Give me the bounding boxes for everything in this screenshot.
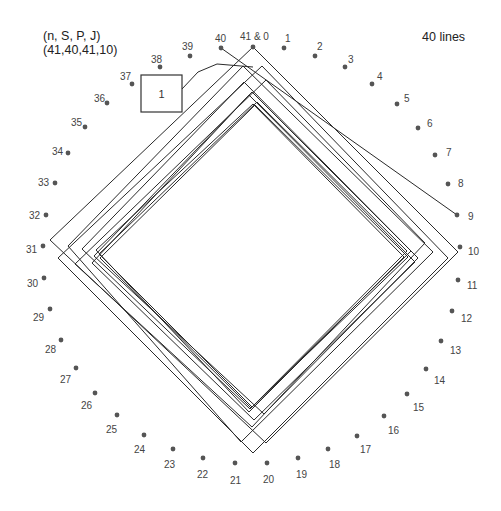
- point-34: 34: [52, 146, 70, 157]
- point-label: 8: [458, 178, 464, 189]
- point-label: 34: [52, 146, 64, 157]
- diamond-lines: [50, 47, 458, 453]
- point-label: 19: [296, 469, 308, 480]
- point-23: 23: [164, 447, 176, 470]
- diamond-10: [100, 105, 408, 408]
- point-dot: [41, 244, 46, 249]
- point-dot: [201, 456, 206, 461]
- point-dot: [382, 414, 387, 419]
- polygon-diagram: 1 41 & 012345678910111213141516171819202…: [0, 0, 501, 511]
- diamond-6: [94, 92, 418, 414]
- point-label: 22: [197, 469, 209, 480]
- point-label: 30: [27, 278, 39, 289]
- point-dot: [171, 447, 176, 452]
- point-22: 22: [197, 456, 209, 480]
- point-label: 26: [81, 400, 93, 411]
- point-dot: [251, 45, 256, 50]
- point-label: 32: [29, 210, 41, 221]
- point-dot: [450, 309, 455, 314]
- point-7: 7: [433, 147, 452, 158]
- diamond-7: [92, 95, 415, 420]
- diamond-2: [58, 66, 448, 453]
- point-dot: [115, 413, 120, 418]
- point-9: 9: [455, 211, 474, 222]
- point-dot: [296, 456, 301, 461]
- point-0: 41 & 0: [240, 31, 269, 49]
- point-32: 32: [29, 210, 48, 221]
- point-dot: [59, 338, 64, 343]
- numbered-box: 1: [141, 64, 253, 112]
- point-18: 18: [326, 447, 341, 470]
- point-label: 15: [413, 402, 425, 413]
- point-label: 39: [182, 41, 194, 52]
- point-1: 1: [282, 33, 291, 50]
- point-label: 20: [263, 474, 275, 485]
- point-38: 38: [151, 54, 163, 69]
- box-connector-line: [182, 64, 253, 89]
- point-label: 5: [404, 93, 410, 104]
- point-dot: [265, 461, 270, 466]
- point-20: 20: [263, 461, 275, 485]
- point-13: 13: [439, 339, 462, 356]
- point-label: 37: [120, 71, 132, 82]
- point-label: 21: [230, 475, 242, 486]
- point-label: 41 & 0: [240, 31, 269, 42]
- diamond-5: [82, 82, 411, 409]
- point-dot: [158, 65, 163, 70]
- point-15: 15: [405, 392, 425, 413]
- point-30: 30: [27, 276, 46, 289]
- point-label: 6: [427, 118, 433, 129]
- point-label: 40: [215, 33, 227, 44]
- point-dot: [93, 391, 98, 396]
- point-label: 14: [434, 375, 446, 386]
- point-label: 11: [467, 280, 478, 291]
- point-17: 17: [355, 434, 372, 455]
- point-2: 2: [313, 41, 323, 58]
- point-label: 9: [468, 211, 474, 222]
- point-label: 35: [71, 117, 83, 128]
- point-label: 2: [317, 41, 323, 52]
- point-dot: [188, 54, 193, 59]
- point-5: 5: [395, 93, 410, 106]
- point-19: 19: [296, 456, 308, 480]
- point-dot: [219, 46, 224, 51]
- point-dot: [83, 125, 88, 130]
- point-label: 10: [468, 246, 480, 257]
- point-dot: [326, 447, 331, 452]
- point-label: 13: [450, 345, 462, 356]
- point-29: 29: [33, 307, 52, 323]
- point-dot: [48, 307, 53, 312]
- point-label: 27: [60, 374, 72, 385]
- point-25: 25: [106, 413, 119, 435]
- point-dot: [66, 151, 71, 156]
- point-39: 39: [182, 41, 194, 58]
- point-dot: [355, 434, 360, 439]
- point-10: 10: [458, 245, 480, 257]
- point-label: 38: [151, 54, 163, 65]
- point-12: 12: [450, 309, 473, 324]
- point-3: 3: [343, 54, 354, 69]
- point-label: 31: [26, 244, 38, 255]
- point-31: 31: [26, 244, 45, 255]
- point-dot: [42, 276, 47, 281]
- point-dot: [282, 46, 287, 51]
- point-dot: [439, 339, 444, 344]
- point-27: 27: [60, 366, 78, 385]
- point-dot: [44, 213, 49, 218]
- point-dot: [370, 82, 375, 87]
- point-label: 25: [106, 424, 118, 435]
- point-dot: [130, 82, 135, 87]
- point-dot: [343, 65, 348, 70]
- point-label: 18: [329, 459, 341, 470]
- point-dot: [405, 392, 410, 397]
- point-14: 14: [424, 367, 446, 386]
- point-dot: [233, 461, 238, 466]
- point-label: 3: [348, 54, 354, 65]
- point-dot: [424, 367, 429, 372]
- diamond-3: [68, 66, 433, 442]
- point-dot: [53, 181, 58, 186]
- point-label: 24: [134, 444, 146, 455]
- diamond-9: [96, 104, 404, 412]
- point-label: 23: [164, 459, 176, 470]
- point-dot: [105, 101, 110, 106]
